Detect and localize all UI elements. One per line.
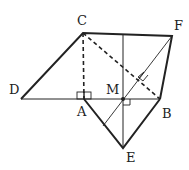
label-C: C — [77, 13, 87, 28]
label-F: F — [174, 18, 183, 33]
label-M: M — [106, 82, 119, 97]
right-angle-mark-A-2 — [84, 92, 91, 99]
label-A: A — [76, 104, 87, 119]
label-E: E — [126, 150, 136, 165]
geometry-diagram: C F D A M B E — [0, 0, 189, 170]
point-M-dot — [121, 97, 125, 101]
segment-CA-dashed — [83, 33, 84, 99]
label-D: D — [9, 82, 19, 97]
label-B: B — [162, 106, 172, 121]
thick-outline-AEB — [84, 99, 160, 148]
right-angle-mark-A — [77, 92, 84, 99]
